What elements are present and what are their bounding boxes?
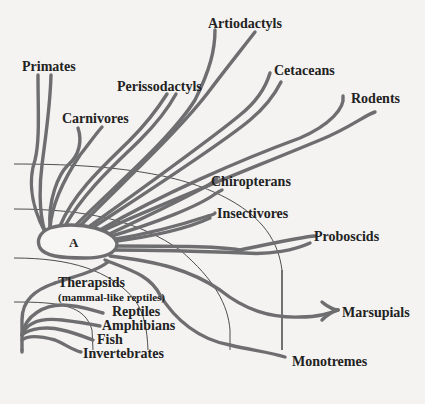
ancestor-label-a: A <box>69 236 78 249</box>
label-fish: Fish <box>97 333 123 347</box>
label-primates: Primates <box>22 60 76 74</box>
label-insectivores: Insectivores <box>217 207 288 221</box>
label-chiropterans: Chiropterans <box>211 175 291 189</box>
label-marsupials: Marsupials <box>342 306 410 320</box>
label-artiodactyls: Artiodactyls <box>208 17 282 31</box>
label-cetaceans: Cetaceans <box>274 64 335 78</box>
label-perissodactyls: Perissodactyls <box>117 80 202 94</box>
label-reptiles: Reptiles <box>112 305 160 319</box>
label-rodents: Rodents <box>351 92 400 106</box>
label-therapsids-note: (mammal-like reptiles) <box>58 292 165 303</box>
label-carnivores: Carnivores <box>62 112 129 126</box>
label-therapsids: Therapsids <box>58 276 125 290</box>
label-invertebrates: Invertebrates <box>83 347 164 361</box>
label-monotremes: Monotremes <box>292 355 367 369</box>
label-proboscids: Proboscids <box>314 230 379 244</box>
evolution-diagram: A Primates Carnivores Perissodactyls Art… <box>0 0 425 404</box>
label-amphibians: Amphibians <box>102 319 175 333</box>
